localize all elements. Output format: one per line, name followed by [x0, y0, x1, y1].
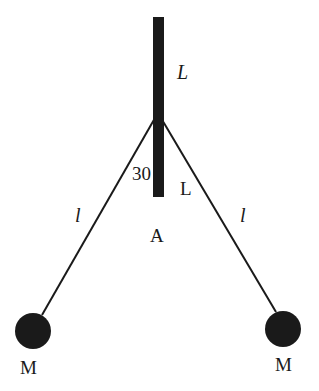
left-string: [42, 118, 155, 315]
right-string: [161, 118, 276, 312]
left-mass-label: M: [20, 357, 37, 378]
pendulum-diagram: L 30 L A l l M M: [0, 0, 319, 391]
left-mass: [15, 313, 51, 349]
vertical-rod: [153, 17, 164, 197]
rod-upper-length-label: L: [176, 61, 188, 83]
rod-lower-length-label: L: [180, 178, 192, 199]
diagram-svg: L 30 L A l l M M: [0, 0, 319, 391]
point-a-label: A: [150, 225, 164, 246]
right-mass: [265, 311, 301, 347]
right-string-length-label: l: [240, 204, 246, 226]
left-string-length-label: l: [75, 204, 81, 226]
angle-label: 30: [132, 163, 151, 184]
right-mass-label: M: [275, 354, 292, 375]
